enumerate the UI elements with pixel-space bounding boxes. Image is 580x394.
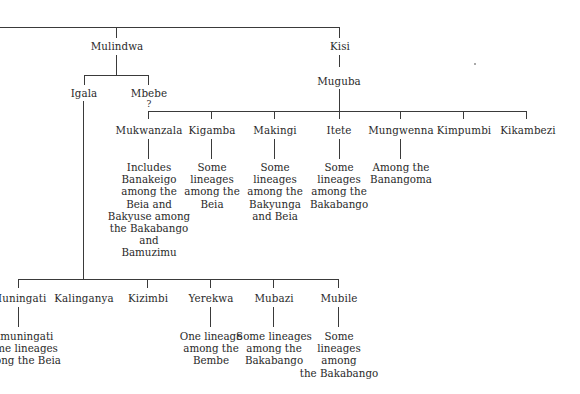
node-kikambezi: Kikambezi [500,124,555,136]
node-muguba: Muguba [317,75,361,87]
connector [273,307,274,327]
desc-mukwanzala: Includes Banakeigo among the Beia and Ba… [108,161,190,259]
desc-muningati: Bamuningati Some lineages among the Beia [0,330,61,367]
connector [211,111,212,119]
node-itete: Itete [326,124,351,136]
desc-kigamba: Some lineages among the Beia [184,161,239,210]
connector [526,111,527,119]
connector [84,75,85,85]
node-mubile: Mubile [320,292,357,304]
connector [339,27,340,38]
connector [84,75,149,76]
connector [147,279,148,288]
node-mukwanzala: Mukwanzala [116,124,183,136]
connector [148,111,149,119]
speck [474,63,476,65]
connector [18,307,19,327]
connector [210,279,211,288]
connector [339,111,340,119]
connector [210,307,211,327]
connector [116,55,117,75]
mbebe-qualifier: ? [147,99,152,109]
desc-mungwenna: Among the Banangoma [370,161,432,185]
connector [338,279,339,288]
node-mulindwa: Mulindwa [91,40,144,52]
upper-row-connector [148,111,527,112]
connector [400,139,401,159]
connector [338,307,339,327]
connector [18,279,19,288]
connector [148,75,149,85]
desc-yerekwa: One lineage among the Bembe [180,330,243,367]
connector [339,139,340,159]
node-muningati: Muningati [0,292,46,304]
node-mubazi: Mubazi [254,292,293,304]
connector [116,27,117,38]
connector [273,279,274,288]
node-igala: Igala [71,87,98,99]
node-makingi: Makingi [253,124,296,136]
connector [274,139,275,159]
node-kimpumbi: Kimpumbi [437,124,491,136]
top-connector [0,27,340,28]
connector [463,111,464,119]
connector [83,101,84,279]
connector [339,89,340,111]
connector [339,55,340,67]
desc-makingi: Some lineages among the Bakyunga and Bei… [247,161,302,222]
desc-mubile: Some lineages among the Bakabango [300,330,378,379]
node-mungwenna: Mungwenna [368,124,434,136]
connector [148,139,149,159]
node-mbebe: Mbebe [131,87,167,99]
node-kigamba: Kigamba [189,124,236,136]
lower-row-connector [18,279,339,280]
node-kisi: Kisi [330,40,350,52]
node-yerekwa: Yerekwa [189,292,234,304]
node-kalinganya: Kalinganya [54,292,113,304]
desc-itete: Some lineages among the Bakabango [310,161,368,210]
connector [274,111,275,119]
node-kizimbi: Kizimbi [128,292,168,304]
connector [211,139,212,159]
connector [400,111,401,119]
